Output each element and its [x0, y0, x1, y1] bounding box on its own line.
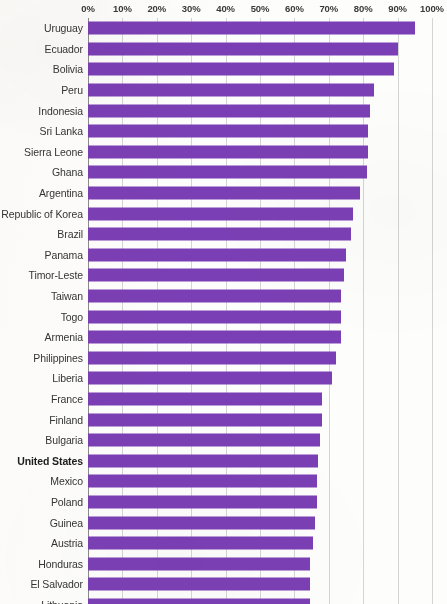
- bar-row: Ghana: [0, 162, 447, 183]
- bar-track: [88, 104, 432, 117]
- bar-row: Republic of Korea: [0, 203, 447, 224]
- bar: [88, 310, 341, 323]
- bar-track: [88, 372, 432, 385]
- bar: [88, 372, 332, 385]
- category-label: Indonesia: [38, 105, 83, 117]
- x-axis-tick-label: 50%: [251, 3, 270, 14]
- category-label: Ghana: [52, 166, 83, 178]
- x-axis-tick-label: 70%: [319, 3, 338, 14]
- bar-row: France: [0, 389, 447, 410]
- bar: [88, 42, 398, 55]
- bar-row: Sierra Leone: [0, 142, 447, 163]
- bar-track: [88, 248, 432, 261]
- x-axis-tick-label: 40%: [216, 3, 235, 14]
- bar-track: [88, 207, 432, 220]
- bar-track: [88, 290, 432, 303]
- bar: [88, 269, 344, 282]
- bar-row: El Salvador: [0, 574, 447, 595]
- category-label: Brazil: [57, 228, 83, 240]
- category-label: Peru: [61, 84, 83, 96]
- bar-track: [88, 145, 432, 158]
- bar-row: Philippines: [0, 348, 447, 369]
- category-label: Argentina: [39, 187, 83, 199]
- category-label: Bolivia: [53, 63, 83, 75]
- bar-row: Poland: [0, 492, 447, 513]
- bar-row: Taiwan: [0, 286, 447, 307]
- bar: [88, 145, 368, 158]
- bar-track: [88, 331, 432, 344]
- category-label: Timor-Leste: [28, 269, 83, 281]
- bar-row: Panama: [0, 245, 447, 266]
- category-label: Panama: [44, 249, 83, 261]
- bar: [88, 104, 370, 117]
- bar: [88, 475, 317, 488]
- category-label: Finland: [49, 414, 83, 426]
- bar-track: [88, 475, 432, 488]
- bar-chart: 0%10%20%30%40%50%60%70%80%90%100% Urugua…: [0, 0, 447, 604]
- bar-track: [88, 228, 432, 241]
- bar: [88, 125, 368, 138]
- category-label: El Salvador: [30, 578, 83, 590]
- bar-row: Mexico: [0, 471, 447, 492]
- bar: [88, 392, 322, 405]
- bar-row: Indonesia: [0, 100, 447, 121]
- bar-row: Armenia: [0, 327, 447, 348]
- bar-row: Togo: [0, 306, 447, 327]
- bar-track: [88, 537, 432, 550]
- category-label: Ecuador: [45, 43, 83, 55]
- x-axis-tick-label: 20%: [147, 3, 166, 14]
- x-axis-tick-label: 10%: [113, 3, 132, 14]
- bar: [88, 248, 346, 261]
- bar-track: [88, 392, 432, 405]
- bar: [88, 84, 374, 97]
- bar: [88, 516, 315, 529]
- bar-row: Liberia: [0, 368, 447, 389]
- bar-row: Finland: [0, 409, 447, 430]
- bar-row: Uruguay: [0, 18, 447, 39]
- bar-track: [88, 310, 432, 323]
- category-label: Togo: [61, 311, 83, 323]
- x-axis-tick-label: 80%: [354, 3, 373, 14]
- bar: [88, 63, 394, 76]
- bar-track: [88, 351, 432, 364]
- bar-row: Bulgaria: [0, 430, 447, 451]
- category-label: Armenia: [45, 331, 83, 343]
- bar-track: [88, 495, 432, 508]
- category-label: Taiwan: [51, 290, 83, 302]
- bar: [88, 598, 310, 604]
- bar: [88, 557, 310, 570]
- bar-rows: UruguayEcuadorBoliviaPeruIndonesiaSri La…: [0, 18, 447, 604]
- bar: [88, 434, 320, 447]
- bar: [88, 290, 341, 303]
- bar: [88, 228, 351, 241]
- category-label: Guinea: [50, 517, 83, 529]
- bar-track: [88, 516, 432, 529]
- category-label: Sri Lanka: [40, 125, 83, 137]
- bar: [88, 413, 322, 426]
- bar-track: [88, 454, 432, 467]
- category-label: Poland: [51, 496, 83, 508]
- bar: [88, 537, 313, 550]
- bar: [88, 495, 317, 508]
- category-label: Philippines: [33, 352, 83, 364]
- x-axis-tick-label: 100%: [420, 3, 444, 14]
- plot-area: UruguayEcuadorBoliviaPeruIndonesiaSri La…: [0, 18, 447, 604]
- bar-row: Guinea: [0, 512, 447, 533]
- bar-row: Peru: [0, 80, 447, 101]
- bar-track: [88, 269, 432, 282]
- x-axis-tick-label: 30%: [182, 3, 201, 14]
- bar-row: Bolivia: [0, 59, 447, 80]
- bar-track: [88, 413, 432, 426]
- bar: [88, 351, 336, 364]
- bar-row: United States: [0, 450, 447, 471]
- bar-row: Timor-Leste: [0, 265, 447, 286]
- bar-track: [88, 166, 432, 179]
- bar: [88, 454, 318, 467]
- category-label: Mexico: [50, 475, 83, 487]
- bar-track: [88, 434, 432, 447]
- bar-track: [88, 42, 432, 55]
- bar-track: [88, 578, 432, 591]
- bar: [88, 22, 415, 35]
- category-label: Uruguay: [44, 22, 83, 34]
- bar: [88, 187, 360, 200]
